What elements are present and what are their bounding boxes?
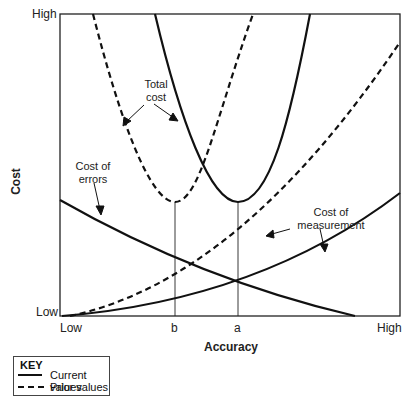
- x-a-label: a: [234, 322, 241, 335]
- cost-of-errors-label: Cost of errors: [68, 160, 118, 186]
- x-axis-title: Accuracy: [204, 341, 258, 354]
- x-low-label: Low: [60, 322, 82, 335]
- cost-of-measurement-prior-curve: [70, 42, 400, 316]
- legend: KEY Current values Prior values: [13, 356, 110, 396]
- total-cost-label: Total cost: [138, 78, 174, 104]
- y-high-label: High: [32, 8, 57, 21]
- total-cost-curve: [155, 14, 310, 202]
- cost-of-measurement-label: Cost of measurement: [292, 206, 370, 232]
- legend-title: KEY: [20, 359, 43, 371]
- x-b-label: b: [171, 322, 178, 335]
- legend-prior: Prior values: [50, 381, 108, 393]
- y-low-label: Low: [36, 306, 58, 319]
- y-axis-title: Cost: [10, 168, 23, 195]
- x-high-label: High: [377, 322, 402, 335]
